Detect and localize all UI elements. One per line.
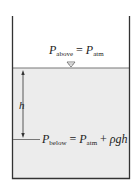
tank-drawing — [0, 0, 140, 193]
subscript-atm: atm — [93, 50, 104, 58]
equals-sign: = — [69, 132, 76, 146]
subscript-atm: atm — [87, 139, 98, 147]
free-surface-triangle-icon — [67, 62, 75, 67]
p-symbol: P — [79, 132, 86, 146]
equals-sign: = — [76, 43, 83, 57]
liquid-body — [13, 68, 129, 178]
bottom-pressure-label: Pbelow = Patm + ρgh — [42, 133, 128, 147]
top-pressure-label: Pabove = Patm — [49, 44, 104, 58]
rho-g-h-term: ρgh — [110, 132, 128, 146]
subscript-below: below — [49, 139, 66, 147]
depth-label: h — [19, 100, 25, 111]
subscript-above: above — [56, 50, 73, 58]
hydrostatic-pressure-diagram: Pabove = Patm h Pbelow = Patm + ρgh — [0, 0, 140, 193]
plus-sign: + — [100, 132, 107, 146]
